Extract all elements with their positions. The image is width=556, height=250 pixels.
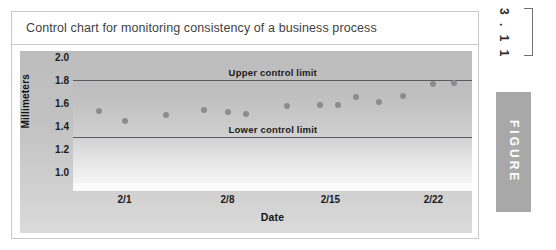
- figure-label-text: FIGURE: [507, 120, 521, 183]
- x-tick-label: 2/22: [424, 194, 443, 205]
- data-point: [96, 108, 102, 114]
- x-tick-label: 2/1: [118, 194, 132, 205]
- y-tick-label: 1.6: [55, 97, 69, 108]
- figure-screenshot: Control chart for monitoring consistency…: [0, 0, 556, 250]
- data-point: [353, 94, 359, 100]
- data-point: [335, 102, 341, 108]
- y-tick-label: 1.4: [55, 120, 69, 131]
- data-point: [163, 112, 169, 118]
- figure-bracket-icon: [524, 8, 533, 56]
- control-chart: Millimeters 1.01.21.41.61.82.0 Upper con…: [13, 46, 477, 237]
- x-tick-label: 2/15: [321, 194, 340, 205]
- y-tick-label: 1.2: [55, 143, 69, 154]
- data-point: [376, 99, 382, 105]
- control-limit-label: Lower control limit: [229, 124, 318, 135]
- x-tick-label: 2/8: [221, 194, 235, 205]
- y-tick-label: 1.8: [55, 74, 69, 85]
- plot-area: Upper control limitLower control limit: [73, 51, 472, 183]
- y-tick-label: 1.0: [55, 166, 69, 177]
- x-axis-title: Date: [73, 211, 472, 223]
- data-point: [201, 107, 207, 113]
- y-tick-label: 2.0: [55, 51, 69, 62]
- data-point: [122, 118, 128, 124]
- plot-lower-fade: [73, 183, 472, 191]
- data-point: [225, 109, 231, 115]
- control-limit-line: [73, 137, 472, 138]
- x-axis-ticks: 2/12/82/152/22: [73, 194, 472, 208]
- figure-caption: Control chart for monitoring consistency…: [12, 12, 478, 45]
- y-axis-ticks: 1.01.21.41.61.82.0: [27, 51, 69, 183]
- figure-label-box: FIGURE: [496, 92, 531, 212]
- figure-number: 3 . 1 1: [497, 8, 511, 59]
- data-point: [430, 81, 436, 87]
- data-point: [284, 103, 290, 109]
- data-point: [317, 102, 323, 108]
- figure-card: Control chart for monitoring consistency…: [11, 11, 479, 239]
- data-point: [400, 93, 406, 99]
- control-limit-line: [73, 80, 472, 81]
- control-limit-label: Upper control limit: [229, 67, 317, 78]
- data-point: [451, 80, 457, 86]
- data-point: [243, 111, 249, 117]
